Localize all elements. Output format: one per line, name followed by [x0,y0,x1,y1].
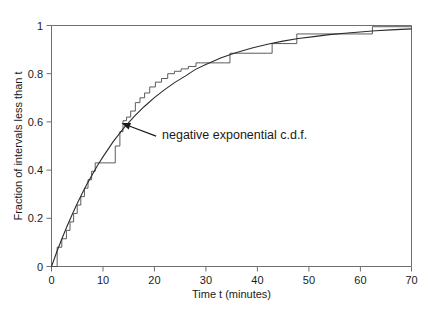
x-ticklabel-0: 0 [48,274,54,286]
arrow-shaft [130,126,156,136]
x-ticklabel-40: 40 [251,274,263,286]
y-ticklabel-0: 0 [37,261,43,273]
y-axis-ticks [47,26,52,267]
x-axis-ticks [52,267,412,272]
negative-exponential-curve [52,29,412,267]
chart-figure: 1 0.8 0.6 0.4 0.2 0 0 10 20 30 40 50 60 … [0,0,436,311]
plot-frame [52,26,412,267]
annotation-arrow [121,123,156,136]
empirical-cdf-step-line [52,27,412,267]
y-ticklabel-1: 1 [37,20,43,32]
y-ticklabel-0-4: 0.4 [28,164,43,176]
y-ticklabel-0-6: 0.6 [28,116,43,128]
x-ticklabel-20: 20 [148,274,160,286]
y-axis-tick-labels: 1 0.8 0.6 0.4 0.2 0 [28,20,43,273]
y-ticklabel-0-2: 0.2 [28,212,43,224]
annotation-label: negative exponential c.d.f. [162,128,307,142]
x-ticklabel-50: 50 [303,274,315,286]
x-ticklabel-70: 70 [405,274,417,286]
y-axis-title: Fraction of intervals less than t [12,71,24,220]
y-ticklabel-0-8: 0.8 [28,68,43,80]
x-ticklabel-60: 60 [354,274,366,286]
x-axis-title: Time t (minutes) [192,288,271,300]
x-ticklabel-10: 10 [97,274,109,286]
axes-frame-rect [52,26,412,267]
x-axis-tick-labels: 0 10 20 30 40 50 60 70 [48,274,417,286]
x-ticklabel-30: 30 [200,274,212,286]
